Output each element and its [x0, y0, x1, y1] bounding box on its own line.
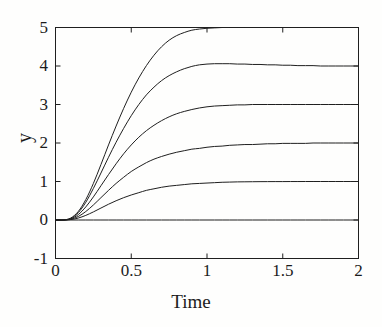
x-axis-label: Time	[0, 292, 382, 311]
x-axis-tick-label-text: 1	[177, 262, 237, 279]
chart-figure: y Time -1012345 00.511.52	[0, 0, 382, 327]
y-axis-tick-label-text: 0	[22, 211, 48, 228]
data-curve	[56, 27, 359, 220]
y-axis-tick-label-text: 5	[22, 19, 48, 36]
x-axis-tick-label-text: 2	[329, 262, 382, 279]
data-curve	[56, 64, 359, 220]
y-axis-tick-label-text: 1	[22, 173, 48, 190]
y-axis-tick-label-text: 2	[22, 134, 48, 151]
y-axis-tick-label-text: 3	[22, 96, 48, 113]
y-axis-tick-label-text: 4	[22, 57, 48, 74]
data-curve	[56, 104, 359, 220]
x-axis-tick-label-text: 1.5	[253, 262, 313, 279]
data-curve	[56, 181, 359, 220]
x-axis-tick-label-text: 0.5	[101, 262, 161, 279]
x-axis-tick-label-text: 0	[26, 262, 86, 279]
